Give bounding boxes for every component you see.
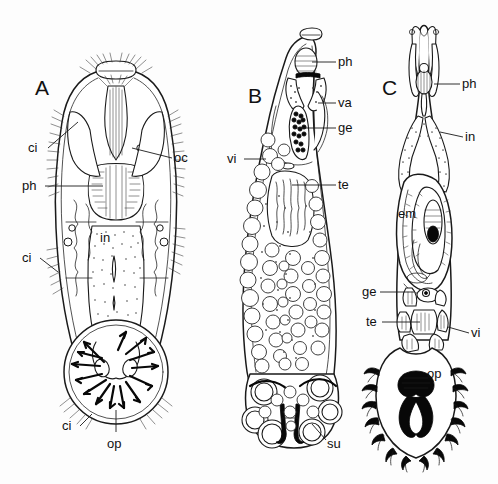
label-a-op: op (107, 436, 121, 451)
label-b-su: su (327, 436, 341, 451)
oral-sucker-a (96, 61, 136, 79)
figure-plate: ciphocinciciopphvagevitesuphinemgeteviop… (0, 0, 498, 484)
label-c-ge: ge (362, 284, 376, 299)
label-c-vi: vi (471, 325, 481, 340)
germarium-c (403, 288, 417, 306)
label-a-ph: ph (22, 178, 36, 193)
label-a-oc: oc (174, 150, 188, 165)
label-a-ci_lower: ci (22, 250, 32, 265)
label-b-te: te (338, 177, 349, 192)
leader-a-ci_lower (40, 258, 58, 272)
label-b-ph: ph (338, 54, 352, 69)
label-a-in: in (100, 230, 110, 245)
panel-letter-c: C (382, 76, 397, 99)
figure-canvas: ciphocinciciopphvagevitesuphinemgeteviop… (0, 0, 498, 484)
leader-c-vi (448, 327, 469, 333)
label-c-te: te (366, 314, 377, 329)
mouth-b (300, 28, 322, 40)
label-a-ci_bottom: ci (62, 418, 72, 433)
panel-letter-b: B (248, 84, 262, 107)
label-c-op: op (427, 366, 441, 381)
label-c-in: in (465, 129, 475, 144)
label-c-ph: ph (462, 76, 476, 91)
label-b-ge: ge (338, 120, 352, 135)
panel-c-drawing (362, 26, 468, 473)
esophagus-c (421, 94, 426, 116)
label-c-em: em (398, 206, 416, 221)
label-b-vi: vi (227, 151, 237, 166)
panel-letter-a: A (35, 76, 49, 99)
opisthaptor-c (376, 348, 456, 458)
label-b-va: va (338, 95, 353, 110)
embryo-eyespot-c (428, 226, 439, 242)
label-a-ci_upper: ci (28, 140, 38, 155)
leader-c-in (440, 132, 463, 137)
ovary-dot-c (425, 292, 428, 295)
panel-a-drawing (47, 53, 185, 429)
intestine-lumen-lower-a (113, 296, 115, 310)
leader-a-ci_bottom (80, 414, 92, 426)
intestine-lumen-upper-a (113, 256, 116, 282)
